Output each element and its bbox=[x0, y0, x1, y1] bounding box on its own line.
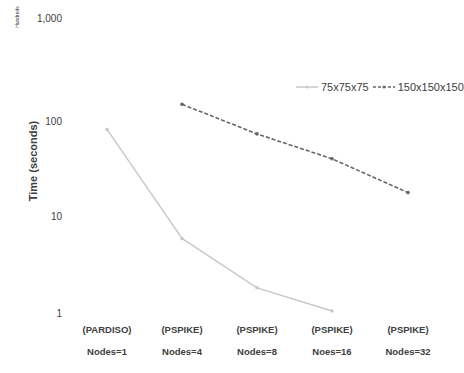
data-point-marker bbox=[330, 157, 334, 161]
x-cat-3-nodes: Noes=16 bbox=[292, 346, 372, 357]
data-point-marker bbox=[180, 102, 184, 106]
x-cat-2-nodes: Nodes=8 bbox=[217, 346, 297, 357]
legend-label: 150x150x150 bbox=[398, 81, 464, 93]
legend: 75x75x75 150x150x150 bbox=[296, 81, 464, 93]
x-cat-1-nodes: Nodes=4 bbox=[142, 346, 222, 357]
legend-solid-line-icon bbox=[296, 83, 318, 91]
data-point-marker bbox=[406, 191, 410, 195]
legend-dashed-line-icon bbox=[373, 83, 395, 91]
data-point-marker bbox=[255, 132, 259, 136]
x-cat-0-nodes: Nodes=1 bbox=[67, 346, 147, 357]
x-cat-1-solver: (PSPIKE) bbox=[142, 324, 222, 335]
legend-label: 75x75x75 bbox=[321, 81, 369, 93]
data-point-marker bbox=[330, 309, 334, 313]
x-cat-0-solver: (PARDISO) bbox=[67, 324, 147, 335]
legend-item-75: 75x75x75 bbox=[296, 81, 369, 93]
x-cat-2-solver: (PSPIKE) bbox=[217, 324, 297, 335]
series-line-150x150x150 bbox=[182, 104, 408, 192]
data-point-marker bbox=[180, 237, 184, 241]
legend-item-150: 150x150x150 bbox=[373, 81, 464, 93]
data-point-marker bbox=[255, 286, 259, 290]
x-cat-3-solver: (PSPIKE) bbox=[292, 324, 372, 335]
data-point-marker bbox=[105, 128, 109, 132]
series-line-75x75x75 bbox=[107, 129, 332, 311]
x-cat-4-nodes: Nodes=32 bbox=[368, 346, 448, 357]
x-cat-4-solver: (PSPIKE) bbox=[368, 324, 448, 335]
